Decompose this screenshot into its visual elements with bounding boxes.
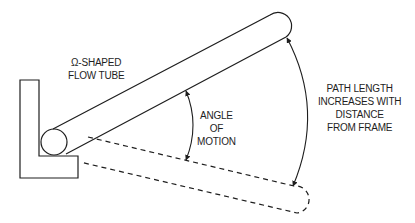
flow-tube-label-line-2: FLOW TUBE [68, 69, 124, 82]
flow-tube-lower-dashed [80, 137, 309, 213]
path-label-line-2: INCREASES WITH [318, 95, 401, 108]
angle-label-line-3: MOTION [197, 135, 236, 148]
path-label-line-3: DISTANCE [318, 108, 401, 121]
path-label-line-4: FROM FRAME [318, 121, 401, 134]
tube-pivot-circle [41, 129, 67, 155]
l-frame [20, 80, 78, 178]
flow-tube-upper [53, 12, 292, 154]
path-length-arrow [287, 38, 308, 186]
flow-tube-label-line-1: Ω-SHAPED [68, 56, 124, 69]
angle-label-line-2: OF [197, 122, 236, 135]
path-length-label: PATH LENGTH INCREASES WITH DISTANCE FROM… [318, 82, 401, 134]
angle-of-motion-arrow [186, 91, 193, 160]
flow-tube-diagram: Ω-SHAPED FLOW TUBE ANGLE OF MOTION PATH … [0, 0, 415, 223]
flow-tube-label: Ω-SHAPED FLOW TUBE [68, 56, 124, 82]
angle-of-motion-label: ANGLE OF MOTION [197, 109, 236, 148]
path-label-line-1: PATH LENGTH [318, 82, 401, 95]
angle-label-line-1: ANGLE [197, 109, 236, 122]
